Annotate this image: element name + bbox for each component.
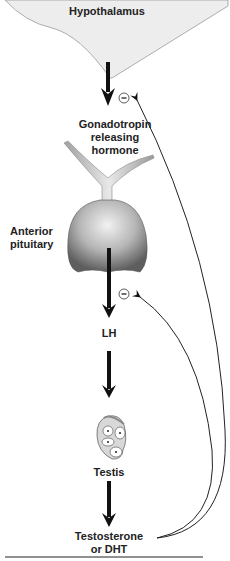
label-lh: LH: [94, 327, 124, 340]
pituitary-line2: pituitary: [10, 238, 64, 251]
label-gnrh: Gonadotropin releasing hormone: [70, 118, 160, 157]
pituitary-line1: Anterior: [10, 225, 64, 238]
gnrh-line3: hormone: [70, 144, 160, 157]
label-anterior-pituitary: Anterior pituitary: [10, 225, 64, 251]
testosterone-line1: Testosterone: [69, 530, 149, 543]
inhibition-icon: [119, 289, 129, 299]
testosterone-line2: or DHT: [69, 543, 149, 556]
label-hypothalamus: Hypothalamus: [62, 5, 152, 18]
inhibition-icon: [119, 93, 129, 103]
testis-icon: [97, 416, 126, 459]
label-testis: Testis: [84, 466, 134, 479]
gnrh-line2: releasing: [70, 131, 160, 144]
arrow-testis-to-testosterone: [102, 481, 116, 527]
feedback-arrow-to-pituitary: [140, 297, 213, 538]
gnrh-line1: Gonadotropin: [70, 118, 160, 131]
label-testosterone: Testosterone or DHT: [69, 530, 149, 556]
arrow-lh-to-testis: [102, 351, 116, 398]
